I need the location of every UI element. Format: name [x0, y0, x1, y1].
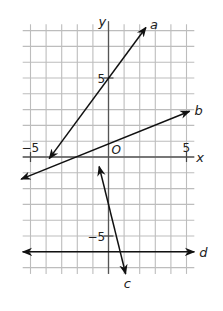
line-label-a: a: [150, 17, 158, 32]
coordinate-plane: abcdxyO−555−5: [0, 0, 223, 311]
origin-label: O: [112, 143, 121, 157]
tick-label-x-neg5: −5: [22, 141, 40, 155]
line-label-c: c: [124, 276, 131, 291]
tick-label-y-neg5: −5: [88, 230, 106, 244]
tick-label-x-5: 5: [183, 141, 191, 155]
x-axis-label: x: [195, 150, 204, 165]
plotted-lines: [21, 27, 194, 273]
y-axis-label: y: [98, 14, 107, 29]
axis-labels: abcdxyO−555−5: [22, 14, 209, 291]
line-a: [49, 27, 146, 158]
line-label-d: d: [199, 245, 208, 260]
tick-label-y-5: 5: [98, 72, 106, 86]
line-label-b: b: [195, 103, 203, 118]
